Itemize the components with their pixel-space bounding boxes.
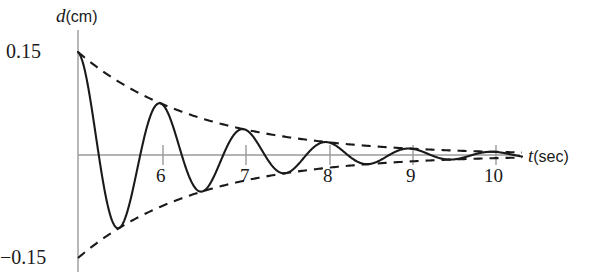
plot-area xyxy=(0,0,600,280)
y-tick-label-bottom: −0.15 xyxy=(0,247,46,267)
damped-oscillation-chart: d(cm) t(sec) 0.15 −0.15 6 7 8 9 10 xyxy=(0,0,600,280)
x-axis-unit: (sec) xyxy=(533,148,569,165)
x-tick-label-9: 9 xyxy=(406,166,416,185)
lower-envelope-curve xyxy=(78,158,522,258)
x-tick-label-8: 8 xyxy=(323,166,333,185)
y-axis-title: d(cm) xyxy=(56,6,97,25)
y-axis-unit: (cm) xyxy=(66,8,98,25)
displacement-curve xyxy=(78,52,522,228)
x-axis-title: t(sec) xyxy=(528,146,569,165)
y-axis-variable: d xyxy=(56,5,66,26)
y-tick-label-top: 0.15 xyxy=(6,41,41,61)
x-tick-label-6: 6 xyxy=(156,166,166,185)
x-tick-label-7: 7 xyxy=(240,166,250,185)
x-tick-label-10: 10 xyxy=(484,166,503,185)
axes-group xyxy=(78,30,520,272)
